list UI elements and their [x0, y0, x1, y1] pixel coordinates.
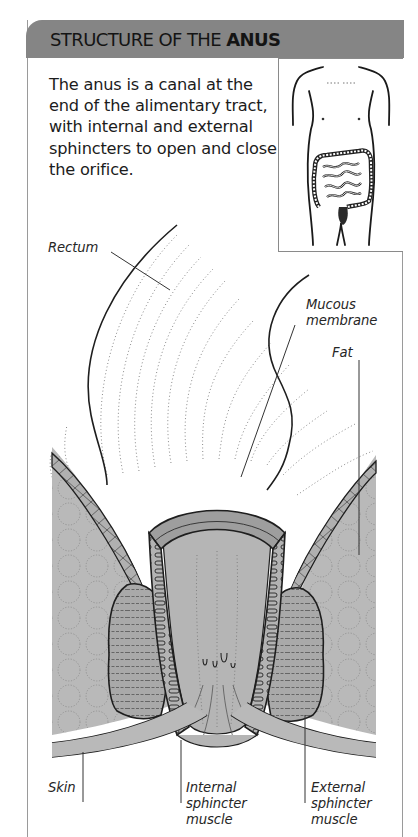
- label-external-sphincter: External sphincter muscle: [311, 780, 372, 828]
- page-title: STRUCTURE OF THE ANUS: [50, 29, 280, 50]
- label-fat: Fat: [332, 345, 353, 361]
- label-skin: Skin: [48, 780, 76, 796]
- title-bold-text: ANUS: [226, 29, 280, 50]
- label-internal-sphincter: Internal sphincter muscle: [186, 780, 247, 828]
- label-rectum: Rectum: [48, 240, 98, 256]
- title-regular-text: STRUCTURE OF THE: [50, 29, 226, 50]
- label-mucous-membrane: Mucous membrane: [306, 297, 377, 329]
- figure-header: STRUCTURE OF THE ANUS: [26, 20, 404, 58]
- intro-text: The anus is a canal at the end of the al…: [49, 74, 279, 180]
